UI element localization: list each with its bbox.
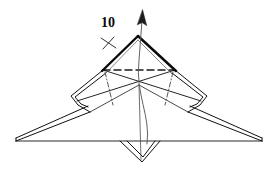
origami-diagram-canvas [0,0,276,174]
origami-figure-root: 10 [0,0,276,174]
step-number-label: 10 [101,16,115,30]
paper-background [0,0,276,174]
